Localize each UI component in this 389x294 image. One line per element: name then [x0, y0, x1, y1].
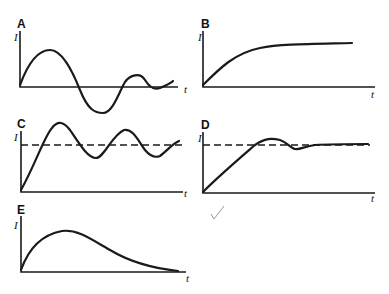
panel-c-xlabel: t	[184, 187, 188, 199]
panel-a-xlabel: t	[184, 83, 188, 95]
panel-a: A I t	[13, 17, 188, 113]
panel-e: E I t	[13, 203, 190, 284]
panel-c: C I t	[13, 117, 188, 199]
panel-d-label: D	[201, 118, 210, 132]
panel-a-ylabel: I	[13, 31, 19, 43]
panel-b-xlabel: t	[371, 88, 375, 100]
panel-d-curve	[203, 139, 368, 192]
panel-b-axes	[203, 31, 375, 87]
panel-c-curve	[21, 123, 179, 190]
panel-c-label: C	[17, 117, 26, 131]
panel-b-ylabel: I	[197, 31, 203, 43]
panel-d-axes	[203, 132, 375, 193]
panel-b-curve	[203, 43, 352, 85]
panel-e-ylabel: I	[13, 219, 19, 231]
panel-b-label: B	[201, 17, 210, 31]
panel-c-ylabel: I	[13, 131, 19, 143]
panel-e-axes	[21, 216, 186, 272]
panel-e-xlabel: t	[186, 272, 190, 284]
graphs-figure: A I t B I t C I t D I t E I t	[0, 0, 389, 294]
panel-e-label: E	[17, 203, 25, 217]
panel-a-curve	[20, 50, 173, 113]
panel-a-label: A	[17, 17, 26, 31]
panel-d-ylabel: I	[197, 132, 203, 144]
panel-b: B I t	[197, 17, 375, 100]
panel-d: D I t	[197, 118, 375, 219]
panel-e-curve	[21, 231, 178, 271]
panel-a-axes	[20, 31, 178, 87]
check-mark-icon	[211, 206, 224, 219]
